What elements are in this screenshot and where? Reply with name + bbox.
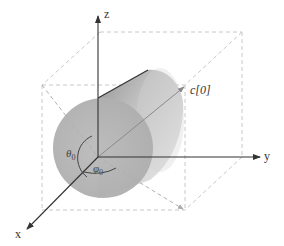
diagram-canvas	[0, 0, 284, 246]
y-axis-label: y	[264, 150, 270, 162]
phi-subscript: 0	[99, 168, 103, 177]
c0-label-text: c[0]	[190, 83, 211, 97]
phi-label: φ0	[93, 163, 103, 177]
cylinder-coordinate-diagram: z y x c[0] θ0 φ0	[0, 0, 284, 246]
cylinder	[53, 68, 184, 198]
c0-label: c[0]	[190, 84, 211, 96]
theta-subscript: 0	[71, 153, 75, 162]
z-axis-label: z	[104, 8, 109, 20]
theta-label: θ0	[66, 148, 75, 162]
x-axis-label: x	[15, 228, 21, 240]
